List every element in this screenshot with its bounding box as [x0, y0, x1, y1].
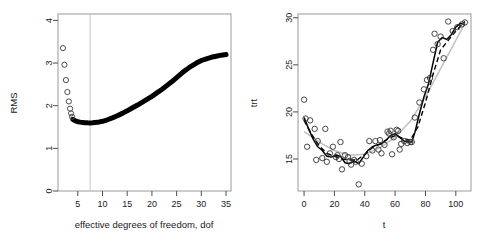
trt-point	[389, 152, 394, 157]
tick-label: 20	[329, 199, 339, 209]
tick-label: 25	[284, 60, 294, 70]
rms-point	[66, 99, 71, 104]
trt-point	[330, 144, 335, 149]
two-panel-figure: 5101520253035 01234 effective degrees of…	[0, 0, 483, 244]
tick-label: 60	[390, 199, 400, 209]
tick-label: 40	[360, 199, 370, 209]
rms-point	[60, 46, 65, 51]
left-y-axis-ticks: 01234	[44, 18, 58, 194]
trt-point	[430, 47, 435, 52]
rms-curve-path	[73, 55, 226, 123]
panel-rms-vs-dof: 5101520253035 01234 effective degrees of…	[0, 0, 242, 244]
trt-point	[304, 144, 309, 149]
tick-label: 4	[44, 18, 54, 23]
left-y-axis-title: RMS	[8, 92, 19, 113]
trt-point	[446, 19, 451, 24]
tick-label: 5	[75, 199, 80, 209]
tick-label: 3	[44, 61, 54, 66]
rms-point	[63, 78, 68, 83]
tick-label: 2	[44, 103, 54, 108]
rms-point	[65, 89, 70, 94]
trt-point	[338, 139, 343, 144]
trt-point	[379, 151, 384, 156]
gray-smoother-path	[304, 23, 465, 155]
trt-point	[320, 155, 325, 160]
gray-smoother-line	[304, 23, 465, 155]
trt-point	[312, 126, 317, 131]
right-y-axis-title: trt	[248, 98, 259, 107]
left-x-axis-title: effective degrees of freedom, dof	[75, 219, 214, 230]
trt-point	[359, 161, 364, 166]
trt-point	[314, 157, 319, 162]
solid-smoother-path	[304, 23, 465, 163]
rms-point	[62, 62, 67, 67]
right-x-axis-title: t	[383, 219, 386, 230]
tick-label: 1	[44, 146, 54, 151]
tick-label: 15	[284, 154, 294, 164]
panel-trt-vs-t: 020406080100 15202530 t trt	[242, 0, 483, 244]
right-x-axis-ticks: 020406080100	[302, 191, 464, 209]
trt-point	[397, 147, 402, 152]
right-y-axis-ticks: 15202530	[284, 13, 298, 164]
solid-smoother-line	[304, 23, 465, 163]
tick-label: 25	[172, 199, 182, 209]
trt-point	[432, 31, 437, 36]
right-plot-frame	[298, 14, 471, 191]
tick-label: 35	[221, 199, 231, 209]
dashed-smoother-path	[304, 22, 465, 160]
left-panel-svg: 5101520253035 01234 effective degrees of…	[0, 0, 242, 244]
rms-open-circles	[60, 46, 74, 120]
dashed-smoother-line	[304, 22, 465, 160]
right-panel-svg: 020406080100 15202530 t trt	[242, 0, 483, 244]
trt-point	[307, 118, 312, 123]
tick-label: 80	[420, 199, 430, 209]
tick-label: 20	[147, 199, 157, 209]
left-x-axis-ticks: 5101520253035	[75, 191, 231, 209]
trt-point	[324, 159, 329, 164]
tick-label: 30	[284, 13, 294, 23]
trt-point	[395, 128, 400, 133]
trt-point	[301, 97, 306, 102]
tick-label: 100	[448, 199, 463, 209]
trt-scatter-points	[301, 19, 467, 187]
rms-curve-band	[73, 55, 226, 123]
trt-point	[367, 138, 372, 143]
trt-point	[356, 182, 361, 187]
tick-label: 20	[284, 107, 294, 117]
tick-label: 30	[196, 199, 206, 209]
tick-label: 10	[97, 199, 107, 209]
tick-label: 0	[302, 199, 307, 209]
tick-label: 15	[122, 199, 132, 209]
trt-point	[323, 126, 328, 131]
tick-label: 0	[44, 188, 54, 193]
trt-point	[339, 167, 344, 172]
